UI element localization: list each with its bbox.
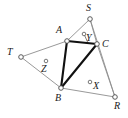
edge-T-A: [21, 41, 67, 57]
point-label-X: X: [93, 81, 99, 91]
outer-polygon-edges: [21, 19, 115, 97]
marker-dot-X: [88, 80, 92, 84]
vertex-dot-C: [95, 42, 100, 47]
point-label-Y: Y: [86, 33, 92, 43]
edge-B-R: [61, 88, 115, 97]
edge-C-A: [67, 41, 97, 44]
point-label-S: S: [86, 3, 91, 13]
point-label-R: R: [114, 101, 120, 111]
vertex-dot-T: [19, 55, 24, 60]
vertex-dot-A: [65, 39, 70, 44]
point-label-Z: Z: [41, 64, 47, 74]
point-label-B: B: [55, 93, 61, 103]
point-label-A: A: [56, 25, 62, 35]
vertex-dot-R: [113, 95, 118, 100]
edge-C-R: [97, 44, 115, 97]
point-label-C: C: [102, 39, 109, 49]
figure-canvas: [0, 0, 128, 118]
vertex-dot-B: [59, 86, 64, 91]
geometry-figure: S A Y C T Z X B R: [0, 0, 128, 118]
point-label-T: T: [7, 47, 13, 57]
vertex-dot-S: [88, 17, 93, 22]
